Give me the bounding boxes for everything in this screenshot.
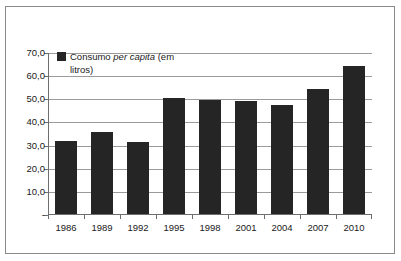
x-tick-label: 1989	[82, 222, 122, 233]
legend-label-part1: Consumo	[70, 51, 113, 62]
x-tick-label: 1992	[118, 222, 158, 233]
x-tick-label: 1995	[154, 222, 194, 233]
chart-figure: -10,020,030,040,050,060,070,0 1986198919…	[0, 0, 401, 261]
legend-item: Consumo per capita (em litros)	[57, 51, 177, 76]
x-axis-tick-labels: 198619891992199519982001200420072010	[0, 0, 401, 261]
legend-label-italic: per capita	[113, 51, 155, 62]
x-tick-label: 1986	[46, 222, 86, 233]
chart-legend: Consumo per capita (em litros)	[57, 51, 177, 76]
x-tick-label: 2010	[334, 222, 374, 233]
legend-color-swatch	[57, 52, 66, 61]
x-tick-label: 2001	[226, 222, 266, 233]
x-tick-label: 2004	[262, 222, 302, 233]
x-tick-label: 1998	[190, 222, 230, 233]
x-tick-label: 2007	[298, 222, 338, 233]
legend-label: Consumo per capita (em litros)	[70, 51, 177, 76]
